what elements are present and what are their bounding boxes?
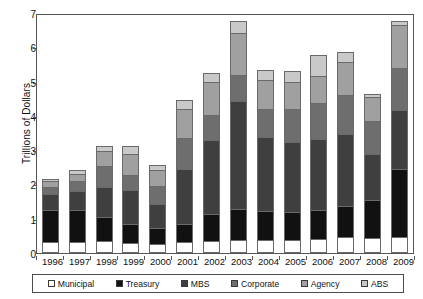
segment-treasury-2009 [392,170,407,239]
segment-corporate-1997 [70,182,85,192]
segment-abs-2006 [311,56,326,77]
segment-mbs-2004 [258,138,273,212]
segment-abs-2007 [338,53,353,63]
segment-corporate-1999 [123,176,138,191]
segment-agency-2000 [150,171,165,186]
x-tick-label-2006: 2006 [312,256,327,267]
legend-label: Municipal [58,279,94,289]
segment-abs-2003 [231,22,246,33]
x-tick-mark [414,256,415,260]
x-tick-mark [90,256,91,260]
segment-municipal-1997 [70,243,85,252]
legend-item-corporate[interactable]: Corporate [231,279,279,289]
legend-item-treasury[interactable]: Treasury [116,279,160,289]
segment-municipal-2009 [392,238,407,252]
segment-corporate-2002 [204,116,219,142]
segment-agency-2006 [311,77,326,104]
segment-corporate-2009 [392,69,407,112]
segment-treasury-2000 [150,229,165,244]
x-tick-mark [198,256,199,260]
segment-municipal-2008 [365,239,380,252]
x-tick-label-1997: 1997 [69,256,84,267]
legend-label: Treasury [126,279,160,289]
segment-municipal-1999 [123,244,138,252]
segment-corporate-2000 [150,187,165,206]
segment-corporate-1998 [97,167,112,188]
segment-mbs-2005 [285,143,300,213]
segment-municipal-2005 [285,241,300,252]
bar-1997 [69,170,86,253]
legend-item-abs[interactable]: ABS [361,279,388,289]
segment-municipal-2002 [204,242,219,252]
x-tick-label-2008: 2008 [366,256,381,267]
segment-corporate-2003 [231,76,246,102]
x-tick-mark [333,256,334,260]
legend-swatch-municipal-icon [48,280,55,287]
segment-treasury-2002 [204,215,219,242]
x-tick-mark [171,256,172,260]
segment-treasury-1999 [123,225,138,244]
segment-agency-2003 [231,34,246,77]
bar-2005 [284,71,301,253]
segment-agency-2001 [177,110,192,139]
x-tick-mark [36,256,37,260]
segment-treasury-2003 [231,210,246,241]
legend-swatch-abs-icon [361,280,368,287]
legend-swatch-corporate-icon [231,280,238,287]
segment-treasury-1998 [97,218,112,242]
segment-mbs-2001 [177,170,192,225]
legend-label: MBS [191,279,210,289]
legend-item-mbs[interactable]: MBS [181,279,210,289]
segment-mbs-1997 [70,192,85,211]
segment-corporate-1996 [43,188,58,196]
x-tick-label-1999: 1999 [123,256,138,267]
legend-swatch-agency-icon [301,280,308,287]
x-tick-label-1998: 1998 [96,256,111,267]
segment-municipal-1998 [97,242,112,252]
segment-treasury-2006 [311,211,326,240]
segment-treasury-2008 [365,201,380,239]
segment-municipal-1996 [43,243,58,252]
segment-municipal-2006 [311,240,326,252]
segment-mbs-1996 [43,195,58,210]
segment-agency-1999 [123,155,138,176]
bar-2006 [310,55,327,253]
segment-mbs-1999 [123,191,138,225]
segment-mbs-2002 [204,141,219,215]
segment-municipal-2003 [231,241,246,252]
segment-agency-2002 [204,83,219,116]
bar-1998 [96,146,113,253]
segment-corporate-2004 [258,110,273,137]
legend-swatch-mbs-icon [181,280,188,287]
legend-item-municipal[interactable]: Municipal [48,279,94,289]
x-tick-mark [306,256,307,260]
x-tick-mark [252,256,253,260]
bar-2000 [149,165,166,253]
segment-municipal-2007 [338,238,353,252]
segment-mbs-2006 [311,140,326,210]
segment-mbs-2000 [150,205,165,229]
x-tick-mark [360,256,361,260]
bar-2001 [176,100,193,253]
segment-mbs-2009 [392,111,407,169]
segment-corporate-2001 [177,139,192,170]
x-tick-mark [63,256,64,260]
segment-agency-2005 [285,83,300,110]
segment-municipal-2000 [150,245,165,252]
segment-treasury-1997 [70,211,85,244]
segment-mbs-1998 [97,188,112,219]
bar-2007 [337,52,354,253]
segment-abs-1999 [123,147,138,155]
segment-agency-2007 [338,63,353,96]
segment-corporate-2008 [365,122,380,155]
x-tick-label-2002: 2002 [204,256,219,267]
segment-abs-2005 [285,72,300,83]
x-tick-mark [279,256,280,260]
x-tick-mark [387,256,388,260]
x-tick-label-2005: 2005 [285,256,300,267]
bar-group [37,15,413,253]
plot-area [36,14,414,254]
segment-municipal-2001 [177,243,192,252]
legend-item-agency[interactable]: Agency [301,279,340,289]
bar-2008 [364,94,381,253]
